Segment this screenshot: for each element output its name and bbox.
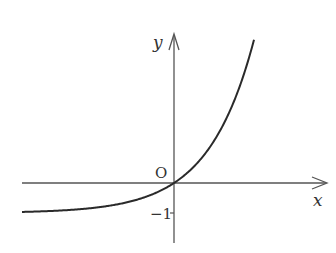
tick-label-minus-one: −1 bbox=[150, 205, 172, 223]
exponential-curve bbox=[22, 40, 254, 212]
origin-label: O bbox=[155, 164, 167, 182]
y-axis-label: y bbox=[152, 32, 163, 52]
graph-canvas: y x O −1 bbox=[0, 0, 336, 253]
x-axis-label: x bbox=[313, 190, 323, 210]
